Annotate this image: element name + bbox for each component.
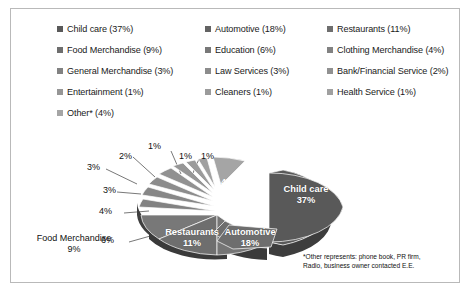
callout-1-percent-a: 1% <box>148 141 161 151</box>
legend-swatch-icon <box>57 89 63 95</box>
legend-item-label: Cleaners (1%) <box>215 87 272 97</box>
legend-item[interactable]: Food Merchandise (9%) <box>57 39 205 60</box>
legend-item[interactable]: Automotive (18%) <box>205 18 327 39</box>
callout-1-percent-c: 1% <box>201 151 214 161</box>
legend-item-label: Health Service (1%) <box>337 87 416 97</box>
slice-label-restaurants: Restaurants 11% <box>159 227 225 249</box>
legend-item[interactable]: Health Service (1%) <box>327 81 457 102</box>
legend-swatch-icon <box>57 26 63 32</box>
legend-item-label: Law Services (3%) <box>215 66 289 76</box>
legend-item-label: Other* (4%) <box>67 108 114 118</box>
legend-item[interactable]: Entertainment (1%) <box>57 81 205 102</box>
legend-item-label: Food Merchandise (9%) <box>67 45 162 55</box>
chart-legend: Child care (37%)Automotive (18%)Restaura… <box>57 18 457 123</box>
legend-swatch-icon <box>57 110 63 116</box>
legend-swatch-icon <box>327 47 333 53</box>
legend-item[interactable]: Restaurants (11%) <box>327 18 457 39</box>
legend-item-label: Automotive (18%) <box>215 24 286 34</box>
legend-swatch-icon <box>205 26 211 32</box>
footnote: *Other represents: phone book, PR firm, … <box>303 252 445 270</box>
legend-swatch-icon <box>57 68 63 74</box>
slice-clothing-merchandise <box>139 199 215 211</box>
legend-swatch-icon <box>327 26 333 32</box>
callout-6-percent: 6% <box>101 235 114 245</box>
legend-item[interactable]: Clothing Merchandise (4%) <box>327 39 457 60</box>
legend-item[interactable]: Bank/Financial Service (2%) <box>327 60 457 81</box>
legend-swatch-icon <box>205 89 211 95</box>
legend-swatch-icon <box>205 47 211 53</box>
legend-item[interactable]: Other* (4%) <box>57 102 205 123</box>
footnote-line-2: Radio, business owner contacted E.E. <box>303 261 445 270</box>
legend-swatch-icon <box>327 89 333 95</box>
legend-swatch-icon <box>57 47 63 53</box>
slice-label-automotive: Automotive 18% <box>217 227 283 249</box>
callout-2-percent: 2% <box>119 151 132 161</box>
legend-item-label: Clothing Merchandise (4%) <box>337 45 444 55</box>
legend-item-label: Restaurants (11%) <box>337 24 410 34</box>
legend-item[interactable]: Child care (37%) <box>57 18 205 39</box>
chart-frame: Child care (37%)Automotive (18%)Restaura… <box>10 8 460 283</box>
legend-item[interactable]: Cleaners (1%) <box>205 81 327 102</box>
callout-3-percent-a: 3% <box>103 185 116 195</box>
legend-item-label: Entertainment (1%) <box>67 87 144 97</box>
legend-swatch-icon <box>327 68 333 74</box>
legend-item-label: Child care (37%) <box>67 24 133 34</box>
callout-1-percent-b: 1% <box>179 151 192 161</box>
legend-item[interactable]: General Merchandise (3%) <box>57 60 205 81</box>
callout-3-percent-b: 3% <box>87 162 100 172</box>
legend-swatch-icon <box>205 68 211 74</box>
callout-4-percent: 4% <box>99 206 112 216</box>
legend-item-label: General Merchandise (3%) <box>67 66 173 76</box>
legend-item-label: Education (6%) <box>215 45 276 55</box>
callout-other-4-percent: 4% <box>221 177 234 187</box>
legend-item-label: Bank/Financial Service (2%) <box>337 66 449 76</box>
footnote-line-1: *Other represents: phone book, PR firm, <box>303 252 445 261</box>
legend-item[interactable]: Law Services (3%) <box>205 60 327 81</box>
legend-item[interactable]: Education (6%) <box>205 39 327 60</box>
slice-label-child-care: Child care 37% <box>269 184 343 206</box>
